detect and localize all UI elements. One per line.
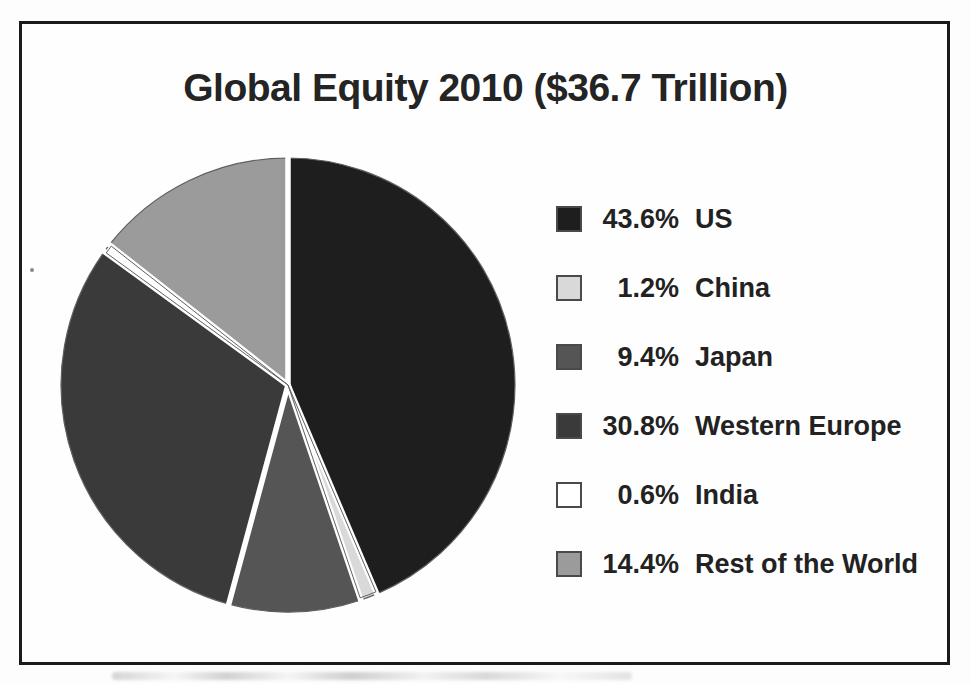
legend-item-india: 0.6% India bbox=[556, 480, 918, 510]
legend-label-western-europe: Western Europe bbox=[695, 411, 902, 442]
pie-chart bbox=[53, 150, 523, 620]
legend-item-rest-of-the-world: 14.4% Rest of the World bbox=[556, 549, 918, 579]
legend-label-us: US bbox=[695, 204, 733, 235]
legend-swatch-japan bbox=[556, 344, 582, 370]
scan-artifact-smudge bbox=[112, 672, 632, 680]
legend-swatch-china bbox=[556, 275, 582, 301]
legend-percent-india: 0.6% bbox=[595, 480, 679, 511]
legend-item-china: 1.2% China bbox=[556, 273, 918, 303]
legend-swatch-india bbox=[556, 482, 582, 508]
legend-item-us: 43.6% US bbox=[556, 204, 918, 234]
legend-label-rest-of-the-world: Rest of the World bbox=[695, 549, 918, 580]
legend-percent-japan: 9.4% bbox=[595, 342, 679, 373]
legend-item-japan: 9.4% Japan bbox=[556, 342, 918, 372]
scan-artifact-dot bbox=[30, 268, 34, 272]
legend-swatch-rest-of-the-world bbox=[556, 551, 582, 577]
legend-item-western-europe: 30.8% Western Europe bbox=[556, 411, 918, 441]
legend-label-japan: Japan bbox=[695, 342, 773, 373]
legend-label-india: India bbox=[695, 480, 758, 511]
chart-title: Global Equity 2010 ($36.7 Trillion) bbox=[40, 66, 931, 110]
legend-swatch-western-europe bbox=[556, 413, 582, 439]
legend-percent-western-europe: 30.8% bbox=[595, 411, 679, 442]
legend-percent-rest-of-the-world: 14.4% bbox=[595, 549, 679, 580]
legend-label-china: China bbox=[695, 273, 770, 304]
legend-swatch-us bbox=[556, 206, 582, 232]
legend-percent-us: 43.6% bbox=[595, 204, 679, 235]
legend-percent-china: 1.2% bbox=[595, 273, 679, 304]
legend: 43.6% US 1.2% China 9.4% Japan 30.8% Wes… bbox=[556, 204, 918, 579]
